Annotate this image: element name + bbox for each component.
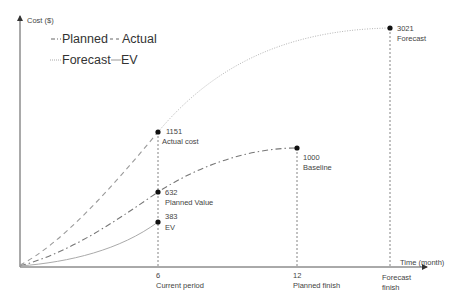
- tick-6: 6: [156, 271, 160, 280]
- legend-ev-label: EV: [121, 53, 138, 67]
- tick-12: 12: [293, 271, 301, 280]
- legend-actual-label: Actual: [122, 32, 157, 46]
- tick-forecast-finish-1: Forecast: [382, 273, 412, 282]
- tick-forecast-finish-2: finish: [382, 283, 400, 292]
- planned-value-label: Planned Value: [165, 198, 213, 207]
- planned-curve: [20, 148, 297, 266]
- planned-value-marker: [155, 189, 160, 194]
- baseline-label: Baseline: [303, 163, 332, 172]
- forecast-label: Forecast: [397, 34, 427, 43]
- ev-label: EV: [165, 223, 175, 232]
- ev-marker: [155, 219, 160, 224]
- x-axis-label: Time (month): [400, 258, 445, 267]
- tick-current-period: Current period: [156, 281, 204, 290]
- forecast-value: 3021: [397, 24, 414, 33]
- legend-planned-label: Planned: [62, 32, 108, 46]
- actual-cost-marker: [155, 129, 160, 134]
- legend-forecast-label: Forecast: [62, 53, 111, 67]
- forecast-marker: [387, 25, 392, 30]
- baseline-value: 1000: [303, 153, 320, 162]
- tick-planned-finish: Planned finish: [293, 281, 340, 290]
- actual-cost-value: 1151: [166, 127, 182, 136]
- ev-value: 383: [165, 212, 178, 221]
- y-axis-label: Cost ($): [27, 16, 54, 25]
- forecast-curve: [158, 28, 390, 132]
- baseline-marker: [294, 145, 299, 150]
- evm-chart: Cost ($) Time (month) 1151 Actual cost 6…: [0, 0, 458, 306]
- actual-cost-label: Actual cost: [162, 137, 200, 146]
- actual-curve: [20, 132, 158, 265]
- ev-curve: [20, 222, 158, 266]
- legend: Planned Actual Forecast EV: [50, 32, 157, 67]
- planned-value-value: 632: [165, 188, 178, 197]
